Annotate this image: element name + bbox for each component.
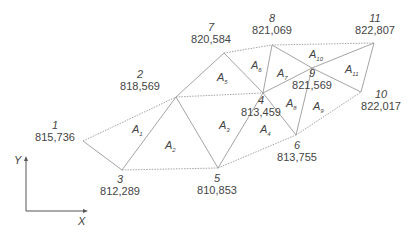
triangle-edges — [83, 43, 374, 170]
node-number: 11 — [353, 12, 397, 24]
node-7-label: 7820,584 — [189, 21, 233, 45]
node-number: 1 — [33, 119, 77, 131]
edge-1-2 — [83, 97, 176, 141]
area-label-8: A8 — [286, 98, 297, 114]
node-11-label: 11822,807 — [353, 12, 397, 36]
node-number: 3 — [98, 173, 142, 185]
node-number: 4 — [239, 94, 283, 106]
area-label-5: A5 — [217, 72, 228, 88]
node-number: 2 — [118, 68, 162, 80]
node-9-label: 9821,569 — [290, 67, 334, 91]
node-6-label: 6813,755 — [275, 139, 319, 163]
area-label-7: A7 — [277, 68, 288, 84]
y-axis-arrow-icon — [24, 156, 28, 161]
node-value: 818,569 — [118, 80, 162, 92]
area-label-10: A10 — [309, 49, 323, 65]
node-value: 822,807 — [353, 24, 397, 36]
node-value: 822,017 — [359, 100, 403, 112]
area-label-4: A4 — [260, 124, 271, 140]
node-value: 810,853 — [195, 184, 239, 196]
edge-8-9 — [272, 45, 312, 68]
edge-8-11 — [272, 43, 374, 45]
coordinate-axes — [24, 156, 88, 213]
x-axis-label: X — [78, 215, 85, 227]
edge-1-3 — [83, 141, 122, 170]
area-label-2: A2 — [165, 140, 176, 156]
node-number: 7 — [189, 21, 233, 33]
edge-6-10 — [296, 92, 361, 135]
node-4-label: 4813,459 — [239, 94, 283, 118]
area-label-9: A9 — [313, 101, 324, 117]
edge-2-3 — [122, 97, 176, 170]
node-value: 821,569 — [290, 79, 334, 91]
area-label-11: A11 — [345, 64, 359, 80]
edge-3-5 — [122, 168, 218, 170]
node-number: 5 — [195, 172, 239, 184]
node-value: 812,289 — [98, 185, 142, 197]
edge-7-8 — [224, 45, 272, 53]
node-value: 813,459 — [239, 106, 283, 118]
node-value: 821,069 — [250, 24, 294, 36]
node-2-label: 2818,569 — [118, 68, 162, 92]
edge-4-8 — [263, 45, 272, 93]
node-10-label: 10822,017 — [359, 88, 403, 112]
node-3-label: 3812,289 — [98, 173, 142, 197]
area-label-1: A1 — [132, 124, 143, 140]
node-8-label: 8821,069 — [250, 12, 294, 36]
node-value: 820,584 — [189, 33, 233, 45]
edge-10-11 — [361, 43, 374, 92]
x-axis-arrow-icon — [83, 209, 88, 213]
area-label-3: A3 — [219, 120, 230, 136]
node-number: 9 — [290, 67, 334, 79]
node-value: 815,736 — [33, 131, 77, 143]
area-label-6: A6 — [251, 60, 262, 76]
node-number: 6 — [275, 139, 319, 151]
y-axis-label: Y — [14, 154, 21, 166]
node-5-label: 5810,853 — [195, 172, 239, 196]
node-number: 8 — [250, 12, 294, 24]
node-1-label: 1815,736 — [33, 119, 77, 143]
node-number: 10 — [359, 88, 403, 100]
node-value: 813,755 — [275, 151, 319, 163]
edge-2-5 — [176, 97, 218, 168]
